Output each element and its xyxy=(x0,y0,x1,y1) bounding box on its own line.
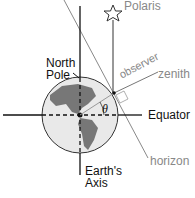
polaris-label: Polaris xyxy=(124,0,161,12)
equator-label: Equator xyxy=(148,109,190,121)
observer-point xyxy=(112,91,116,95)
north-pole-label-line2: Pole xyxy=(46,69,70,81)
horizon-label: horizon xyxy=(150,155,189,167)
star-icon xyxy=(104,5,122,21)
earth-axis-label-line2: Axis xyxy=(85,177,108,189)
latitude-diagram: Polaris North Pole observer zenith θ Equ… xyxy=(0,0,195,198)
theta-label: θ xyxy=(102,103,108,115)
zenith-label: zenith xyxy=(158,68,190,80)
